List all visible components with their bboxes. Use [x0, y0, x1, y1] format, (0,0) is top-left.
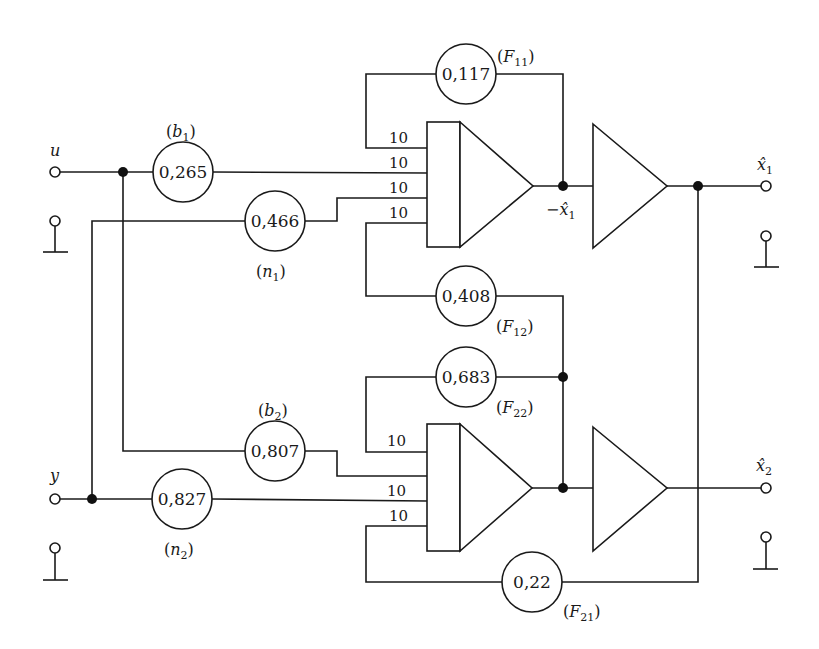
inverter-1-triangle	[593, 124, 667, 248]
gain-label: 10	[389, 507, 408, 525]
gain-label: 10	[389, 129, 408, 147]
coefficient-label: (b2)	[258, 401, 288, 423]
coefficient-label: (F21)	[563, 602, 601, 624]
terminal-icon	[761, 181, 771, 191]
gain-label: 10	[389, 204, 408, 222]
integrator-1-triangle	[460, 122, 533, 247]
junction-dot	[558, 483, 568, 493]
gain-label: 10	[387, 482, 406, 500]
integrator-2: 10 10 10	[387, 424, 532, 551]
input-label-y: y	[49, 466, 60, 485]
gain-label: 10	[389, 179, 408, 197]
junction-dot	[87, 494, 97, 504]
ground-terminal-icon	[50, 216, 60, 226]
coefficient-value: 0,408	[442, 286, 491, 306]
coefficient-label: (F12)	[496, 317, 534, 339]
wire-y-to-n1	[92, 221, 245, 499]
coefficient-value: 0,807	[251, 441, 300, 461]
coefficient-label: (n1)	[256, 262, 286, 284]
integrator-1-box	[427, 122, 460, 247]
potentiometer-F21: 0,22 (F21)	[502, 552, 601, 624]
gain-label: 10	[387, 432, 406, 450]
gain-label: 10	[389, 154, 408, 172]
output-terminal-x2: x̂2	[753, 456, 778, 569]
coefficient-value: 0,466	[251, 211, 300, 231]
junction-dot	[558, 372, 568, 382]
coefficient-value: 0,117	[442, 64, 491, 84]
potentiometer-n2: 0,827 (n2)	[152, 469, 212, 562]
coefficient-value: 0,827	[158, 489, 207, 509]
input-terminal-u: u	[43, 141, 68, 252]
junction-dot	[693, 181, 703, 191]
circuit-diagram: 10 10 10 10 10 10 10 0,265 (b1) 0,466 (n…	[0, 0, 819, 649]
junction-dot	[118, 167, 128, 177]
wire-b1-to-int1	[213, 172, 427, 173]
integrator-2-triangle	[460, 424, 532, 551]
potentiometer-b2: 0,807 (b2)	[245, 401, 305, 481]
output-terminal-x1: x̂1	[754, 155, 779, 267]
integrator-2-box	[427, 424, 460, 551]
terminal-icon	[50, 167, 60, 177]
ground-terminal-icon	[761, 532, 771, 542]
wire-n1-to-int1	[305, 198, 427, 221]
output-label-x1: x̂1	[757, 155, 773, 177]
inverter-2-triangle	[593, 427, 667, 551]
neg-x1-label: −x̂1	[546, 200, 575, 222]
wire-F21-right	[562, 186, 698, 582]
output-label-x2: x̂2	[756, 456, 772, 478]
coefficient-label: (F22)	[496, 398, 534, 420]
junction-dot	[558, 181, 568, 191]
circuit-svg: 10 10 10 10 10 10 10 0,265 (b1) 0,466 (n…	[0, 0, 819, 649]
ground-terminal-icon	[50, 543, 60, 553]
coefficient-value: 0,683	[442, 367, 491, 387]
integrator-1: 10 10 10 10	[389, 122, 533, 247]
wire-u-to-b2	[123, 172, 245, 451]
input-label-u: u	[50, 141, 60, 160]
wire-b2-to-int2	[305, 451, 427, 476]
potentiometer-F22: 0,683 (F22)	[436, 347, 534, 420]
wire-F12-left	[366, 223, 436, 296]
coefficient-label: (F11)	[497, 47, 535, 69]
potentiometer-n1: 0,466 (n1)	[245, 191, 305, 284]
ground-terminal-icon	[761, 231, 771, 241]
terminal-icon	[761, 483, 771, 493]
coefficient-label: (n2)	[164, 540, 194, 562]
coefficient-label: (b1)	[166, 122, 196, 144]
coefficient-value: 0,265	[159, 162, 208, 182]
terminal-icon	[50, 494, 60, 504]
coefficient-value: 0,22	[513, 572, 551, 592]
potentiometer-F12: 0,408 (F12)	[436, 266, 534, 339]
potentiometer-b1: 0,265 (b1)	[153, 122, 213, 202]
input-terminal-y: y	[43, 466, 68, 580]
